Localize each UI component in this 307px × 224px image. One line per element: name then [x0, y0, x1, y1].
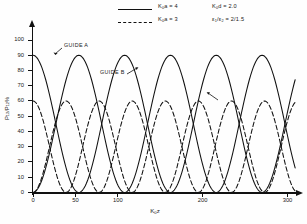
figure-root: K0a = 4 K0a = 3 K0d = 2.0 ε1/ε2 = 2/1.5 …: [0, 0, 307, 224]
curve-solid-cos2: [33, 55, 295, 192]
annotation-guide-a: GUIDE A: [64, 42, 88, 48]
curve-dashed-sin2: [33, 101, 295, 192]
annotation-guide-b: GUIDE B: [100, 69, 125, 75]
extra-leader-right: [208, 93, 218, 100]
curve-dashed-cos2: [33, 101, 295, 192]
guide-a-arrowhead: [54, 53, 58, 56]
plot-curves: [0, 0, 307, 224]
curve-solid-sin2: [33, 55, 295, 192]
